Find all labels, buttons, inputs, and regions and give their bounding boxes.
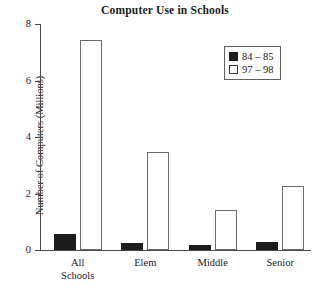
y-axis-tick-label: 8 [26, 17, 31, 30]
bar [215, 210, 237, 250]
bar [189, 245, 211, 250]
bar [147, 152, 169, 250]
legend-item-1: 97 – 98 [229, 63, 274, 76]
hollow-square-icon [229, 65, 238, 74]
y-axis-tick: 4 [35, 137, 40, 138]
filled-square-icon [229, 52, 238, 61]
y-axis-tick: 6 [35, 81, 40, 82]
bar [54, 234, 76, 250]
bar [121, 243, 143, 250]
y-axis-tick-label: 6 [26, 74, 31, 87]
y-axis-tick-label: 0 [26, 243, 31, 256]
chart-title: Computer Use in Schools [0, 4, 330, 16]
bar [282, 186, 304, 250]
y-axis-tick-label: 2 [26, 187, 31, 200]
y-axis-tick-label: 4 [26, 130, 31, 143]
y-axis-tick: 8 [35, 24, 40, 25]
chart-legend: 84 – 85 97 – 98 [224, 46, 281, 80]
y-axis-tick: 2 [35, 194, 40, 195]
legend-item-label: 84 – 85 [242, 50, 274, 63]
bar-chart: Computer Use in Schools Number of Comput… [0, 0, 330, 289]
y-axis-tick: 0 [35, 250, 40, 251]
y-axis-line [40, 24, 41, 251]
legend-item-label: 97 – 98 [242, 63, 274, 76]
x-axis-tick-label: Senior [235, 256, 325, 269]
bar [256, 242, 278, 250]
x-axis-line [40, 250, 311, 251]
legend-item-0: 84 – 85 [229, 50, 274, 63]
bar [80, 40, 102, 250]
